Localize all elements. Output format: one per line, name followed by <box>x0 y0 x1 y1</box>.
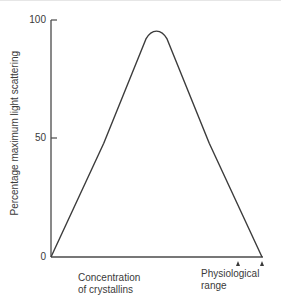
scattering-curve <box>51 31 262 257</box>
x-axis-label-line1: Concentration <box>78 272 140 284</box>
y-tick-label-0: 0 <box>16 251 46 262</box>
range-label-line2: range <box>201 280 259 292</box>
physiological-range-label: Physiological range <box>201 268 259 292</box>
x-axis-label: Concentration of crystallins <box>78 272 140 296</box>
y-tick-label-100: 100 <box>16 14 46 25</box>
y-axis-title: Percentage maximum light scattering <box>9 56 20 216</box>
range-start-arrow-icon <box>236 261 240 266</box>
x-axis-label-line2: of crystallins <box>78 284 140 296</box>
range-label-line1: Physiological <box>201 268 259 280</box>
range-end-arrow-icon <box>260 261 264 266</box>
y-tick-label-50: 50 <box>16 132 46 143</box>
